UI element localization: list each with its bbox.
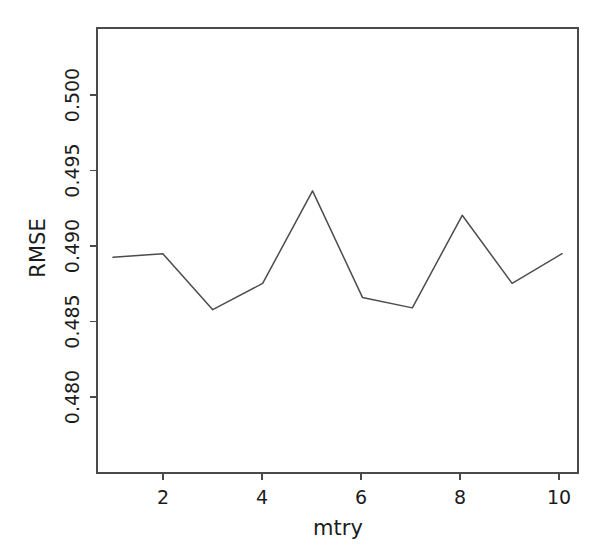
plot-canvas: 0.500 0.495 0.490 0.485 0.480 2 4 6 8 10…: [0, 0, 607, 557]
y-axis-tick-labels: 0.500 0.495 0.490 0.485 0.480: [61, 68, 83, 424]
y-tick-label-3: 0.495: [61, 143, 83, 197]
x-tick-label-3: 8: [454, 486, 466, 508]
y-tick-label-1: 0.485: [61, 294, 83, 348]
y-axis-title: RMSE: [26, 218, 50, 277]
y-tick-label-2: 0.490: [61, 219, 83, 273]
x-tick-label-0: 2: [157, 486, 169, 508]
y-tick-label-0: 0.480: [61, 370, 83, 424]
x-tick-label-2: 6: [355, 486, 367, 508]
x-axis-ticks: [163, 473, 559, 480]
y-tick-label-4: 0.500: [61, 68, 83, 122]
x-axis-tick-labels: 2 4 6 8 10: [157, 486, 571, 508]
y-axis-ticks: [90, 95, 97, 397]
rmse-vs-mtry-plot: 0.500 0.495 0.490 0.485 0.480 2 4 6 8 10…: [0, 0, 607, 557]
x-axis-title: mtry: [313, 516, 363, 540]
x-tick-label-1: 4: [256, 486, 268, 508]
rmse-series-line: [113, 191, 562, 310]
plot-box-border: [97, 28, 578, 473]
x-tick-label-4: 10: [547, 486, 571, 508]
